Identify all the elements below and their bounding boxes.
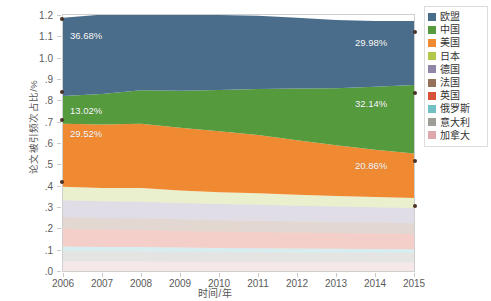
x-tick-mark	[375, 273, 376, 277]
legend-item-9[interactable]: 加拿大	[428, 129, 485, 142]
y-axis: 1.21.11.0.9.8.7.6.5.4.3.2.1.0	[0, 0, 62, 301]
legend-item-8[interactable]: 意大利	[428, 116, 485, 129]
y-tick-mark	[57, 58, 61, 59]
chart-page: 论文被引频次占比/% 1.21.11.0.9.8.7.6.5.4.3.2.1.0…	[0, 0, 491, 301]
area-series-意大利	[63, 251, 414, 262]
y-tick-mark	[57, 164, 61, 165]
x-tick-mark	[141, 273, 142, 277]
y-tick-mark	[57, 271, 61, 272]
x-tick-mark	[102, 273, 103, 277]
y-tick-label: .8	[9, 95, 53, 106]
legend-swatch-icon	[428, 92, 436, 100]
legend-swatch-icon	[428, 105, 436, 113]
legend-label: 德国	[440, 64, 460, 75]
legend-swatch-icon	[428, 65, 436, 73]
y-tick-mark	[57, 250, 61, 251]
legend-item-3[interactable]: 日本	[428, 50, 485, 63]
y-tick-mark	[57, 122, 61, 123]
y-tick-label: .3	[9, 202, 53, 213]
x-tick-mark	[180, 273, 181, 277]
area-series-欧盟	[63, 15, 414, 96]
y-tick-label: .5	[9, 159, 53, 170]
legend-label: 俄罗斯	[440, 103, 470, 114]
legend-label: 意大利	[440, 117, 470, 128]
y-tick-label: 1.2	[9, 10, 53, 21]
legend-item-0[interactable]: 欧盟	[428, 10, 485, 23]
legend-label: 英国	[440, 90, 460, 101]
y-tick-label: .2	[9, 223, 53, 234]
y-tick-label: .9	[9, 74, 53, 85]
legend-label: 中国	[440, 24, 460, 35]
legend-swatch-icon	[428, 79, 436, 87]
y-tick-label: .1	[9, 244, 53, 255]
legend-item-4[interactable]: 德国	[428, 63, 485, 76]
legend-item-6[interactable]: 英国	[428, 89, 485, 102]
legend-label: 加拿大	[440, 130, 470, 141]
legend-item-2[interactable]: 美国	[428, 36, 485, 49]
y-tick-mark	[57, 79, 61, 80]
legend-swatch-icon	[428, 26, 436, 34]
y-tick-label: 1.1	[9, 31, 53, 42]
legend-swatch-icon	[428, 52, 436, 60]
legend-label: 日本	[440, 51, 460, 62]
y-tick-label: .6	[9, 138, 53, 149]
y-tick-label: 1.0	[9, 52, 53, 63]
plot-area	[63, 15, 414, 271]
y-tick-label: .4	[9, 180, 53, 191]
legend-swatch-icon	[428, 118, 436, 126]
y-tick-mark	[57, 207, 61, 208]
y-tick-mark	[57, 186, 61, 187]
x-tick-mark	[63, 273, 64, 277]
legend-swatch-icon	[428, 39, 436, 47]
x-tick-mark	[219, 273, 220, 277]
legend-swatch-icon	[428, 131, 436, 139]
legend-item-7[interactable]: 俄罗斯	[428, 102, 485, 115]
x-tick-mark	[414, 273, 415, 277]
y-tick-mark	[57, 100, 61, 101]
legend-swatch-icon	[428, 13, 436, 21]
x-tick-mark	[336, 273, 337, 277]
legend-item-5[interactable]: 法国	[428, 76, 485, 89]
y-tick-mark	[57, 36, 61, 37]
y-tick-mark	[57, 228, 61, 229]
y-tick-label: .7	[9, 116, 53, 127]
x-axis-title: 时间/年	[0, 285, 430, 300]
stacked-area-svg	[63, 15, 414, 271]
y-tick-mark	[57, 143, 61, 144]
legend-label: 美国	[440, 37, 460, 48]
legend-label: 法国	[440, 77, 460, 88]
area-series-加拿大	[63, 261, 414, 271]
legend-item-1[interactable]: 中国	[428, 23, 485, 36]
legend[interactable]: 欧盟中国美国日本德国法国英国俄罗斯意大利加拿大	[424, 6, 488, 147]
legend-label: 欧盟	[440, 11, 460, 22]
x-tick-mark	[258, 273, 259, 277]
x-tick-mark	[297, 273, 298, 277]
y-tick-mark	[57, 15, 61, 16]
